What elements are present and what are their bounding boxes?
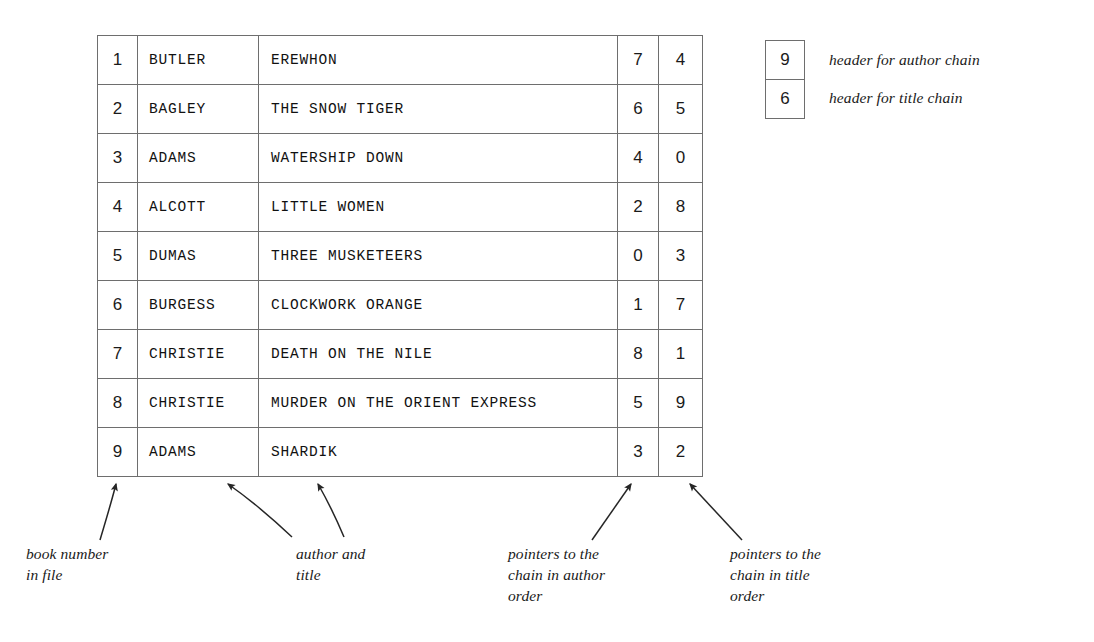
row-pointer-author-chain: 5: [618, 379, 659, 428]
table-row: 8CHRISTIEMURDER ON THE ORIENT EXPRESS59: [98, 379, 703, 428]
row-pointer-author-chain: 0: [618, 232, 659, 281]
row-pointer-title-chain: 0: [659, 134, 703, 183]
legend-row-title-chain: 6: [766, 80, 805, 119]
row-pointer-title-chain: 2: [659, 428, 703, 477]
row-pointer-author-chain: 3: [618, 428, 659, 477]
row-pointer-author-chain: 1: [618, 281, 659, 330]
row-pointer-author-chain: 4: [618, 134, 659, 183]
row-pointer-title-chain: 3: [659, 232, 703, 281]
row-book-number: 6: [98, 281, 138, 330]
row-book-number: 9: [98, 428, 138, 477]
row-author: BUTLER: [138, 36, 259, 85]
row-pointer-author-chain: 6: [618, 85, 659, 134]
row-title: THE SNOW TIGER: [259, 85, 618, 134]
row-pointer-author-chain: 8: [618, 330, 659, 379]
row-title: THREE MUSKETEERS: [259, 232, 618, 281]
row-pointer-title-chain: 1: [659, 330, 703, 379]
legend-label-title-chain: header for title chain: [829, 89, 963, 107]
legend-label-author-chain: header for author chain: [829, 51, 980, 69]
arrow-to-book-number: [100, 484, 116, 540]
row-author: ALCOTT: [138, 183, 259, 232]
book-file-table: 1BUTLEREREWHON742BAGLEYTHE SNOW TIGER653…: [97, 35, 703, 477]
table-row: 1BUTLEREREWHON74: [98, 36, 703, 85]
row-author: DUMAS: [138, 232, 259, 281]
row-title: LITTLE WOMEN: [259, 183, 618, 232]
row-pointer-title-chain: 8: [659, 183, 703, 232]
row-pointer-title-chain: 9: [659, 379, 703, 428]
legend-value-title-chain: 6: [766, 80, 805, 119]
row-title: MURDER ON THE ORIENT EXPRESS: [259, 379, 618, 428]
arrow-to-title-column: [318, 484, 344, 537]
caption-author-and-title: author and title: [296, 543, 365, 585]
legend-value-boxes: 9 6: [765, 40, 805, 119]
row-title: DEATH ON THE NILE: [259, 330, 618, 379]
arrow-to-author-column: [228, 484, 292, 537]
row-pointer-title-chain: 4: [659, 36, 703, 85]
table-row: 6BURGESSCLOCKWORK ORANGE17: [98, 281, 703, 330]
table-row: 2BAGLEYTHE SNOW TIGER65: [98, 85, 703, 134]
row-author: ADAMS: [138, 134, 259, 183]
row-book-number: 8: [98, 379, 138, 428]
row-author: BAGLEY: [138, 85, 259, 134]
row-book-number: 4: [98, 183, 138, 232]
row-title: EREWHON: [259, 36, 618, 85]
row-title: SHARDIK: [259, 428, 618, 477]
row-author: BURGESS: [138, 281, 259, 330]
row-author: CHRISTIE: [138, 330, 259, 379]
table-row: 4ALCOTTLITTLE WOMEN28: [98, 183, 703, 232]
row-pointer-title-chain: 7: [659, 281, 703, 330]
arrow-to-title-pointer-column: [690, 484, 742, 540]
table-row: 9ADAMSSHARDIK32: [98, 428, 703, 477]
arrow-to-author-pointer-column: [592, 484, 631, 540]
row-author: CHRISTIE: [138, 379, 259, 428]
row-book-number: 2: [98, 85, 138, 134]
table-row: 5DUMASTHREE MUSKETEERS03: [98, 232, 703, 281]
row-title: WATERSHIP DOWN: [259, 134, 618, 183]
table-row: 7CHRISTIEDEATH ON THE NILE81: [98, 330, 703, 379]
row-author: ADAMS: [138, 428, 259, 477]
row-book-number: 5: [98, 232, 138, 281]
caption-pointers-author-order: pointers to the chain in author order: [508, 543, 605, 606]
legend-row-author-chain: 9: [766, 41, 805, 80]
row-book-number: 1: [98, 36, 138, 85]
row-pointer-author-chain: 2: [618, 183, 659, 232]
legend-value-author-chain: 9: [766, 41, 805, 80]
row-book-number: 7: [98, 330, 138, 379]
table-row: 3ADAMSWATERSHIP DOWN40: [98, 134, 703, 183]
row-title: CLOCKWORK ORANGE: [259, 281, 618, 330]
row-book-number: 3: [98, 134, 138, 183]
caption-pointers-title-order: pointers to the chain in title order: [730, 543, 821, 606]
row-pointer-author-chain: 7: [618, 36, 659, 85]
row-pointer-title-chain: 5: [659, 85, 703, 134]
caption-book-number: book number in file: [26, 543, 108, 585]
